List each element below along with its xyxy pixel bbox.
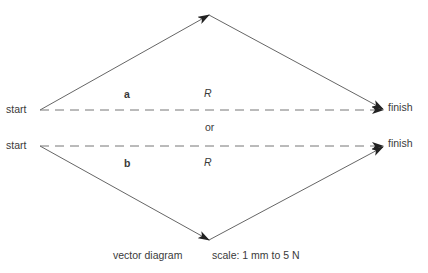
vector-a2-line: [209, 15, 383, 109]
vector-b2-line: [209, 147, 383, 240]
resultant-bottom-label: R: [204, 156, 212, 168]
bottom-finish-label: finish: [388, 137, 413, 149]
top-start-label: start: [6, 103, 26, 115]
scale-label: scale: 1 mm to 5 N: [212, 249, 300, 261]
vector-b-label: b: [124, 157, 130, 169]
vector-diagram-canvas: [0, 0, 428, 273]
resultant-top-label: R: [204, 87, 212, 99]
top-finish-label: finish: [388, 101, 413, 113]
bottom-start-label: start: [6, 139, 26, 151]
or-separator: or: [205, 121, 214, 133]
diagram-caption: vector diagram: [113, 249, 182, 261]
vector-a-label: a: [124, 88, 130, 100]
